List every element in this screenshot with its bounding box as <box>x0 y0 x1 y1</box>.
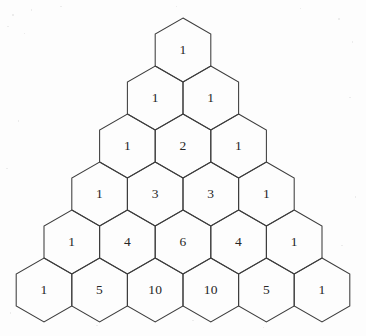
hex-cell-value: 1 <box>235 138 242 153</box>
hex-cell-value: 6 <box>180 234 187 249</box>
hexagon-grid: 11112113311464115101051 <box>0 0 366 336</box>
pascal-triangle-figure: 11112113311464115101051 <box>0 0 366 336</box>
hex-cell-value: 1 <box>68 234 75 249</box>
hex-cell-value: 1 <box>207 90 214 105</box>
hex-cell-value: 1 <box>291 234 298 249</box>
hex-cell-value: 5 <box>263 282 270 297</box>
hex-cell-value: 5 <box>96 282 103 297</box>
hex-cell-value: 1 <box>41 282 48 297</box>
hex-cell-value: 1 <box>263 186 270 201</box>
hex-cell-value: 4 <box>235 234 242 249</box>
hex-cell-value: 1 <box>96 186 103 201</box>
hex-cell-value: 3 <box>152 186 159 201</box>
hex-cell-value: 10 <box>148 282 162 297</box>
hex-cell-value: 2 <box>180 138 187 153</box>
hex-cell-value: 1 <box>180 42 187 57</box>
hex-cell-value: 3 <box>207 186 214 201</box>
hex-cell-value: 4 <box>124 234 131 249</box>
hex-cell-value: 1 <box>124 138 131 153</box>
hex-cell-value: 1 <box>152 90 159 105</box>
hex-cell-value: 10 <box>204 282 218 297</box>
hex-cell-value: 1 <box>319 282 326 297</box>
